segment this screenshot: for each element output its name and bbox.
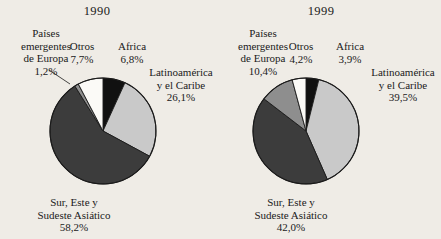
slice-label-africa-name-1990: Africa [118,40,146,52]
figure-canvas: 1990 Países emergentes de Europa 1,2% Ot… [0,0,441,239]
slice-value-africa-1999: 3,9% [326,53,374,66]
slice-label-latinoamerica-line2-1990: y el Caribe [157,79,205,91]
slice-label-otros-1999: Otros 4,2% [279,40,323,65]
slice-label-asia-1990: Sur, Este y Sudeste Asiático 58,2% [10,196,138,234]
slice-label-latinoamerica-line2-1999: y el Caribe [379,79,427,91]
slice-label-otros-1990: Otros 7,7% [60,40,104,65]
slice-label-asia-line2-1999: Sudeste Asiático [254,209,327,221]
slice-value-otros-1990: 7,7% [60,53,104,66]
slice-label-europa-line1-1990: Países [32,27,60,39]
slice-label-otros-name-1990: Otros [70,40,94,52]
slice-label-otros-name-1999: Otros [289,40,313,52]
pie-panel-1999: 1999 Países emergentes de Europa 10,4% O… [221,0,441,239]
slice-label-asia-line1-1999: Sur, Este y [267,196,315,208]
slice-label-africa-1990: Africa 6,8% [108,40,156,65]
slice-value-latinoamerica-1999: 39,5% [360,91,441,104]
slice-label-africa-1999: Africa 3,9% [326,40,374,65]
slice-label-latinoamerica-line1-1999: Latinoamérica [371,66,435,78]
slice-value-asia-1999: 42,0% [227,221,355,234]
slice-label-asia-line2-1990: Sudeste Asiático [37,209,110,221]
slice-value-latinoamerica-1990: 26,1% [141,91,221,104]
slice-label-latinoamerica-line1-1990: Latinoamérica [149,66,213,78]
slice-value-europa-1999: 10,4% [215,65,311,78]
slice-label-latinoamerica-1990: Latinoamérica y el Caribe 26,1% [141,66,221,104]
slice-value-asia-1990: 58,2% [10,221,138,234]
slice-value-africa-1990: 6,8% [108,53,156,66]
slice-label-africa-name-1999: Africa [336,40,364,52]
pie-panel-1990: 1990 Países emergentes de Europa 1,2% Ot… [0,0,220,239]
slice-label-asia-line1-1990: Sur, Este y [50,196,98,208]
slice-value-europa-1990: 1,2% [0,65,94,78]
slice-value-otros-1999: 4,2% [279,53,323,66]
slice-label-latinoamerica-1999: Latinoamérica y el Caribe 39,5% [360,66,441,104]
slice-label-europa-line1-1999: Países [249,27,277,39]
slice-label-asia-1999: Sur, Este y Sudeste Asiático 42,0% [227,196,355,234]
